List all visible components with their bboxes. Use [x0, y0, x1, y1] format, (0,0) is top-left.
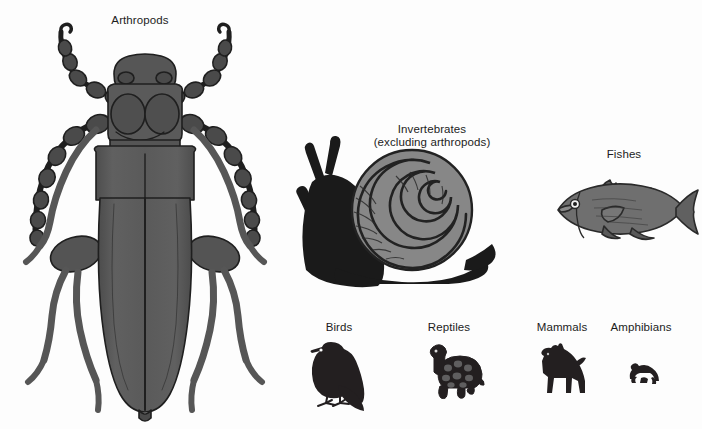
- horse-silhouette: [538, 344, 590, 396]
- snail-illustration: [290, 140, 505, 285]
- beetle-illustration: [4, 26, 286, 426]
- fish-illustration: [550, 172, 702, 244]
- species-diversity-figure: Arthropods: [0, 0, 702, 429]
- label-reptiles: Reptiles: [409, 321, 489, 334]
- label-mammals-text: Mammals: [537, 321, 588, 333]
- label-fishes-text: Fishes: [607, 148, 641, 160]
- frog-silhouette: [627, 358, 661, 388]
- label-amphibians: Amphibians: [596, 321, 686, 334]
- tortoise-silhouette: [420, 344, 482, 400]
- label-reptiles-text: Reptiles: [428, 321, 470, 333]
- label-amphibians-text: Amphibians: [610, 321, 671, 333]
- label-mammals: Mammals: [522, 321, 602, 334]
- label-birds: Birds: [299, 321, 379, 334]
- label-arthropods-text: Arthropods: [111, 14, 168, 26]
- label-birds-text: Birds: [326, 321, 353, 333]
- label-invertebrates-line1: Invertebrates: [352, 123, 512, 136]
- bird-silhouette: [308, 341, 370, 407]
- label-fishes: Fishes: [574, 148, 674, 161]
